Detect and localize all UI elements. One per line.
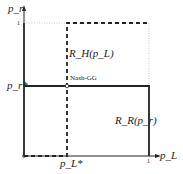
nash-point [65, 84, 69, 88]
y-tick-star: p_r* [7, 80, 28, 91]
y-tick-one: 1 [17, 20, 20, 26]
x-axis-label: p_L [160, 150, 177, 161]
curve-rh-label: R_H(p_L) [69, 48, 114, 59]
curve-rr-label: R_R(p_r) [115, 115, 157, 126]
x-tick-star: p_L* [60, 158, 83, 169]
curve-rh [24, 23, 149, 156]
y-axis-label: p_r [8, 3, 23, 14]
nash-label: Nash-GG [70, 75, 97, 82]
x-tick-one: 1 [147, 158, 150, 164]
